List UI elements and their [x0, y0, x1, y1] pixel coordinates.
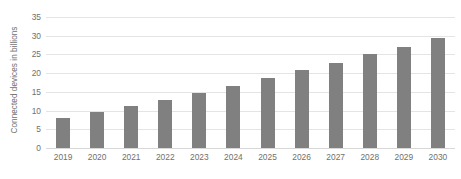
y-axis-tick-label: 10: [32, 106, 41, 116]
y-axis-tick-label: 20: [32, 68, 41, 78]
bar-slot: [148, 17, 182, 148]
bar-slot: [285, 17, 319, 148]
x-axis-tick-label: 2027: [319, 152, 353, 162]
bar: [124, 106, 138, 148]
bar-slot: [80, 17, 114, 148]
y-axis-tick-label: 0: [36, 143, 41, 153]
bar: [329, 63, 343, 148]
bar-chart: Connected devices in billions 0510152025…: [0, 0, 461, 179]
x-axis-tick-label: 2019: [46, 152, 80, 162]
x-axis-tick-label: 2020: [80, 152, 114, 162]
y-axis-tick-label: 25: [32, 49, 41, 59]
bar-slot: [250, 17, 284, 148]
x-axis-tick-label: 2025: [250, 152, 284, 162]
bar-slot: [46, 17, 80, 148]
x-axis-tick-label: 2021: [114, 152, 148, 162]
bar-slot: [353, 17, 387, 148]
plot-area: 05101520253035: [46, 17, 455, 148]
bar: [363, 54, 377, 148]
x-axis-tick-label: 2022: [148, 152, 182, 162]
bar: [158, 100, 172, 148]
x-axis-tick-label: 2028: [353, 152, 387, 162]
bar: [397, 47, 411, 148]
y-axis-tick-label: 30: [32, 31, 41, 41]
bar: [90, 112, 104, 148]
bar: [261, 78, 275, 148]
bar-slot: [387, 17, 421, 148]
y-axis-tick-label: 35: [32, 12, 41, 22]
x-axis-tick-label: 2026: [285, 152, 319, 162]
bar-slot: [421, 17, 455, 148]
bar-slot: [216, 17, 250, 148]
x-axis-tick-label: 2023: [182, 152, 216, 162]
x-axis-tick-labels: 2019202020212022202320242025202620272028…: [46, 152, 455, 162]
bar: [192, 93, 206, 148]
x-axis-tick-label: 2024: [216, 152, 250, 162]
x-axis-tick-label: 2030: [421, 152, 455, 162]
bar-series: [46, 17, 455, 148]
bar: [295, 70, 309, 148]
bar: [56, 118, 70, 148]
bar: [431, 38, 445, 148]
bar-slot: [182, 17, 216, 148]
gridline: [46, 148, 455, 149]
x-axis-tick-label: 2029: [387, 152, 421, 162]
bar-slot: [319, 17, 353, 148]
bar-slot: [114, 17, 148, 148]
bar: [226, 86, 240, 149]
y-axis-tick-label: 15: [32, 87, 41, 97]
y-axis-title: Connected devices in billions: [8, 0, 22, 160]
y-axis-tick-label: 5: [36, 124, 41, 134]
